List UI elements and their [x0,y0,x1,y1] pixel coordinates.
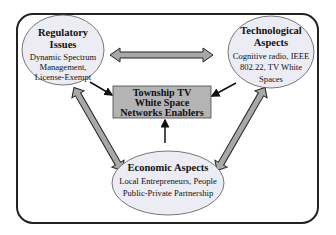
node-title: Technological [240,25,302,36]
node-body: Spaces [259,74,284,84]
node-body: 802.22, TV White [240,62,302,72]
node-body: Public-Private Partnership [123,188,213,198]
node-title: Issues [50,39,77,50]
node-economic-aspects: Economic Aspects Local Entrepreneurs, Pe… [112,151,224,215]
diagram-canvas: Regulatory Issues Dynamic Spectrum Manag… [0,0,336,235]
node-regulatory-issues: Regulatory Issues Dynamic Spectrum Manag… [22,15,104,85]
center-text: Networks Enablers [120,107,204,118]
node-title: Regulatory [38,27,89,38]
node-title: Economic Aspects [128,162,209,173]
node-body: Local Entrepreneurs, People [119,176,217,186]
node-technological-aspects: Technological Aspects Cognitive radio, I… [228,16,314,88]
node-body: License-Exempt [35,72,92,82]
node-title: Aspects [254,37,288,48]
node-body: Management, [39,62,86,72]
node-center-enablers: Township TV White Space Networks Enabler… [113,86,211,118]
node-body: Cognitive radio, IEEE [233,51,310,61]
node-body: Dynamic Spectrum [30,52,97,62]
